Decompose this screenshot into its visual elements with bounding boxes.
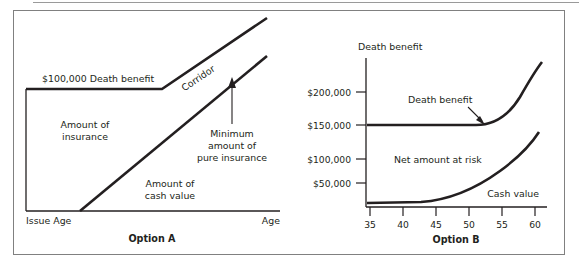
option-a-x-axis-left-label: Issue Age	[26, 215, 72, 226]
option-b-x-tick-label-5: 60	[529, 219, 541, 230]
option-a-minimum-label-line1: Minimum	[210, 128, 253, 139]
option-a-x-axis-right-label: Age	[262, 215, 280, 226]
option-b-y-tick-label-2: $100,000	[307, 154, 351, 165]
option-b-x-tick-label-1: 40	[397, 219, 409, 230]
option-b-x-tick-label-3: 50	[463, 219, 475, 230]
option-b-net-amount-at-risk-label: Net amount at risk	[394, 154, 482, 165]
option-b-y-axis-title: Death benefit	[358, 41, 423, 52]
option-a-amount-of-insurance-label-line2: insurance	[62, 131, 108, 142]
option-a-minimum-label-line2: amount of	[208, 140, 257, 151]
figure-box: $100,000 Death benefit Amount of insuran…	[13, 10, 565, 255]
option-a-amount-of-insurance-label-line1: Amount of	[61, 119, 111, 130]
option-b-x-tick-label-2: 45	[430, 219, 442, 230]
chart-option-b: Death benefit $200,000 $150,000 $100,000…	[290, 11, 566, 256]
page-top-rule	[33, 2, 579, 3]
option-a-minimum-label-line3: pure insurance	[197, 152, 267, 163]
option-b-cash-value-label: Cash value	[487, 188, 539, 199]
option-b-y-tick-label-1: $150,000	[307, 120, 351, 131]
option-b-caption: Option B	[433, 234, 480, 245]
option-b-death-benefit-label: Death benefit	[408, 94, 473, 105]
option-a-death-benefit-label: $100,000 Death benefit	[42, 73, 154, 84]
option-a-cash-value-label-line2: cash value	[145, 190, 196, 201]
option-a-caption: Option A	[128, 233, 176, 244]
option-b-y-tick-label-0: $200,000	[307, 87, 351, 98]
option-a-corridor-label: Corridor	[179, 63, 217, 93]
chart-option-a: $100,000 Death benefit Amount of insuran…	[14, 11, 290, 256]
option-b-x-tick-label-0: 35	[364, 219, 376, 230]
option-b-y-tick-label-3: $50,000	[313, 178, 351, 189]
option-b-x-tick-label-4: 55	[496, 219, 508, 230]
option-a-cash-value-label-line1: Amount of	[146, 178, 196, 189]
